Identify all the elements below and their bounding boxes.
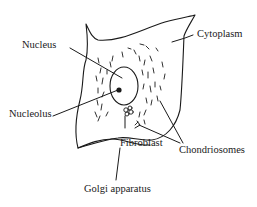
label-nucleolus: Nucleolus <box>9 109 52 120</box>
label-golgi-apparatus: Golgi apparatus <box>84 184 151 195</box>
label-nucleus: Nucleus <box>22 40 56 51</box>
chondriosomes-leader-2 <box>160 101 183 143</box>
nucleus-shape <box>110 67 138 105</box>
nucleus-leader <box>70 48 122 78</box>
label-cytoplasm: Cytoplasm <box>197 29 243 40</box>
cytoplasm-leader <box>172 35 193 42</box>
golgi-cluster <box>124 106 133 116</box>
cell-diagram: Nucleus Cytoplasm Nucleolus Fibroblast C… <box>0 0 257 207</box>
golgi-leader <box>116 148 120 180</box>
label-fibroblast: Fibroblast <box>120 138 163 149</box>
cytoplasm-dashes <box>95 44 165 125</box>
label-chondriosomes: Chondriosomes <box>179 145 245 156</box>
